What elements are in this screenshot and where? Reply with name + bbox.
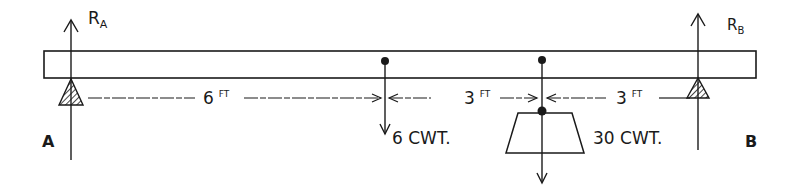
load-1-label: 6 CWT. (392, 128, 451, 148)
support-a-triangle (59, 79, 83, 105)
support-a-label: A (42, 132, 55, 151)
beam (44, 51, 756, 78)
support-b-label: B (745, 132, 757, 151)
dimension-2 (389, 94, 537, 102)
dimension-2-label: 3FT (464, 88, 491, 108)
dimension-3-label: 3FT (616, 88, 643, 108)
load-2-label: 30 CWT. (593, 128, 663, 148)
support-b (687, 14, 709, 150)
load-2 (506, 56, 584, 183)
beam-diagram: RA A RB B 6 CWT. 30 CWT. 6FT 3FT (0, 0, 799, 188)
load-1 (380, 57, 390, 134)
dimension-1-label: 6FT (203, 88, 230, 108)
dimension-1 (88, 94, 381, 102)
reaction-a-label: RA (88, 8, 108, 31)
reaction-b-label: RB (727, 16, 744, 36)
load-2-weight (506, 113, 584, 153)
load-2-point-weight (538, 107, 547, 116)
support-b-triangle (687, 78, 709, 98)
support-a (59, 20, 83, 160)
